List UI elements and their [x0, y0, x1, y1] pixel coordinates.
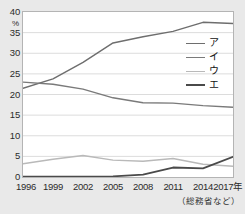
legend-line-swatch-icon	[186, 43, 205, 44]
x-tick-label: 2017年	[213, 181, 243, 192]
y-tick-label: 30	[0, 48, 20, 58]
legend-item-label: イ	[209, 52, 219, 62]
y-tick-label: 15	[0, 110, 20, 120]
y-tick-label: 20	[0, 90, 20, 100]
y-tick-label: 25	[0, 69, 20, 79]
y-axis: 40 % 35 30 25 20 15 10 5 0	[0, 0, 20, 180]
legend-item-label: ウ	[209, 66, 219, 76]
y-tick-label: 5	[0, 151, 20, 161]
x-tick-label: 2011	[163, 181, 182, 192]
legend-item[interactable]: ア	[186, 36, 238, 50]
source-note: （総務省など）	[177, 196, 240, 206]
legend-item[interactable]: イ	[186, 50, 238, 64]
y-tick-label: 10	[0, 131, 20, 141]
x-tick-label: 2005	[103, 181, 123, 192]
legend-item[interactable]: ウ	[186, 64, 238, 78]
x-tick-label: 1999	[43, 181, 63, 192]
legend-line-swatch-icon	[186, 57, 205, 58]
x-tick-label: 2002	[73, 181, 93, 192]
legend-line-swatch-icon	[186, 71, 205, 72]
legend-item-label: ア	[209, 38, 219, 48]
legend-item[interactable]: エ	[186, 78, 238, 92]
x-tick-label: 1996	[16, 181, 36, 192]
series-line	[23, 156, 233, 167]
y-tick-label: 40	[0, 7, 20, 17]
chart-figure: 40 % 35 30 25 20 15 10 5 0 1996199920022…	[0, 0, 245, 214]
chart-legend: ア イ ウ エ	[186, 36, 238, 92]
y-tick-label: 35	[0, 28, 20, 38]
x-axis: 19961999200220052008201120142017年	[22, 181, 235, 195]
x-tick-label: 2008	[133, 181, 153, 192]
legend-item-label: エ	[209, 80, 219, 90]
x-tick-label: 2014	[193, 181, 213, 192]
legend-line-swatch-icon	[186, 84, 205, 86]
